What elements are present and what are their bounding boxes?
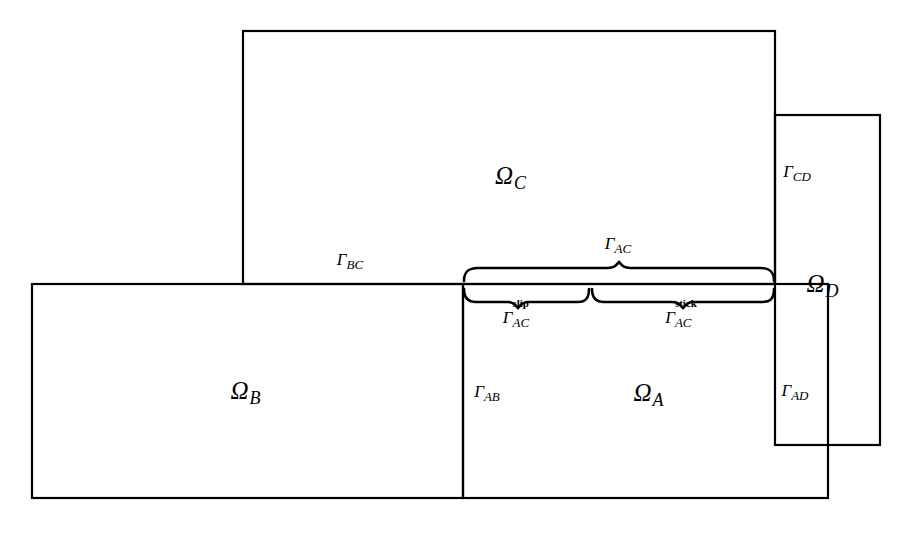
gamma-ad-label: ΓAD xyxy=(781,382,808,399)
gamma-ab-label: ΓAB xyxy=(474,383,500,400)
figure-geometry xyxy=(0,0,905,533)
gamma-ac-label: ΓAC xyxy=(605,235,631,252)
gamma-ac-stick-label: ΓstickstickAC xyxy=(665,309,699,326)
omega-c-rect xyxy=(243,31,775,284)
omega-a-label: ΩA xyxy=(633,380,662,405)
domain-decomposition-figure: ΩC ΩB ΩA ΩD ΓBC ΓAC ΓslipslipAC Γstickst… xyxy=(0,0,905,533)
omega-d-label: ΩD xyxy=(806,271,837,296)
omega-b-label: ΩB xyxy=(230,378,259,403)
omega-c-label: ΩC xyxy=(495,163,525,188)
gamma-ac-slip-label: ΓslipslipAC xyxy=(503,309,531,326)
brace-gamma-ac xyxy=(464,262,774,281)
gamma-bc-label: ΓBC xyxy=(337,251,363,268)
gamma-cd-label: ΓCD xyxy=(783,163,811,180)
